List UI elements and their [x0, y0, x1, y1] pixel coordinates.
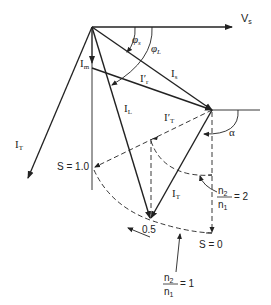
it-prime-arrowhead	[152, 136, 158, 140]
il-vector	[92, 27, 150, 218]
vs-label: Vs	[241, 12, 252, 25]
it-prime-label: I′T	[164, 111, 175, 125]
svg-text:n1: n1	[218, 199, 228, 211]
it-vector	[151, 110, 212, 218]
it-left-vector	[28, 27, 92, 178]
ir-prime-label: I′r	[140, 72, 149, 86]
s-zero-label: S = 0	[199, 239, 223, 250]
is-label: Is	[171, 67, 178, 81]
svg-text:= 1: = 1	[180, 278, 195, 289]
phi-s-label: φs	[132, 33, 141, 47]
im-label: Im	[80, 57, 90, 71]
svg-text:n1: n1	[164, 286, 174, 298]
svg-text:n2: n2	[218, 185, 228, 197]
svg-text:n2: n2	[164, 272, 174, 284]
ratio1-fraction: n2 n1 = 1	[163, 272, 195, 298]
it-left-label: IT	[15, 138, 24, 152]
it-label: IT	[172, 187, 181, 201]
locus-n2-dashed	[151, 141, 212, 175]
phasor-diagram: Vs φs φL Im I′r Is IL IT I′T IT α S = 1.…	[0, 0, 271, 305]
phi-l-label: φL	[151, 42, 161, 56]
il-label: IL	[124, 102, 132, 116]
ratio2-pointer	[200, 176, 217, 192]
is-vector	[92, 27, 212, 110]
ratio2-fraction: n2 n1 = 2	[217, 185, 249, 211]
svg-text:= 2: = 2	[234, 191, 249, 202]
ratio1-pointer	[176, 234, 180, 272]
s-one-label: S = 1.0	[57, 161, 89, 172]
half-label: 0.5	[142, 224, 156, 235]
ir-prime-vector	[92, 68, 212, 110]
alpha-label: α	[229, 126, 235, 138]
